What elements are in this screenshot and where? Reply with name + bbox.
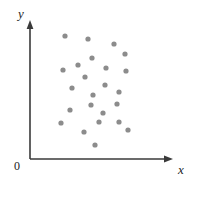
data-point xyxy=(125,127,130,132)
data-point xyxy=(67,107,72,112)
data-point xyxy=(92,142,97,147)
data-point xyxy=(90,92,95,97)
data-point xyxy=(85,36,90,41)
origin-label: 0 xyxy=(14,159,20,173)
data-point xyxy=(82,74,87,79)
data-point xyxy=(111,41,116,46)
data-point xyxy=(114,101,119,106)
data-point-group xyxy=(58,33,130,147)
data-point xyxy=(75,62,80,67)
data-point xyxy=(89,55,94,60)
data-point xyxy=(100,110,105,115)
scatter-plot-svg: y x 0 xyxy=(0,0,198,197)
x-axis-arrowhead xyxy=(164,156,173,163)
axes-group xyxy=(27,20,173,162)
data-point xyxy=(103,65,108,70)
data-point xyxy=(81,129,86,134)
data-point xyxy=(116,89,121,94)
data-point xyxy=(62,33,67,38)
data-point xyxy=(58,120,63,125)
data-point xyxy=(123,68,128,73)
data-point xyxy=(96,119,101,124)
data-point xyxy=(69,85,74,90)
y-axis-arrowhead xyxy=(27,20,34,29)
data-point xyxy=(102,82,107,87)
scatter-plot-figure: y x 0 xyxy=(0,0,198,197)
data-point xyxy=(88,102,93,107)
data-point xyxy=(116,119,121,124)
x-axis-label: x xyxy=(177,162,184,177)
data-point xyxy=(122,51,127,56)
data-point xyxy=(60,67,65,72)
y-axis-label: y xyxy=(16,6,24,21)
